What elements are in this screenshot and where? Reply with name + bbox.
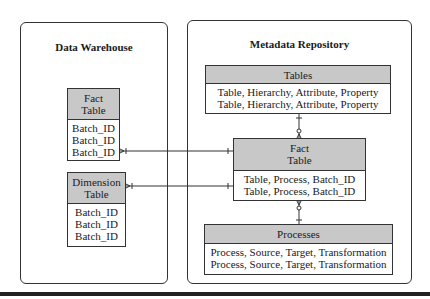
relationship-processes-to-mr-fact[interactable] xyxy=(296,201,302,224)
bottom-rule xyxy=(0,292,430,296)
relationship-dw-fact-to-mr-fact[interactable] xyxy=(120,148,233,154)
relationship-dw-dimension-to-mr-fact[interactable] xyxy=(126,183,233,189)
relationship-tables-to-mr-fact[interactable] xyxy=(296,114,302,138)
relationship-lines xyxy=(0,0,430,299)
